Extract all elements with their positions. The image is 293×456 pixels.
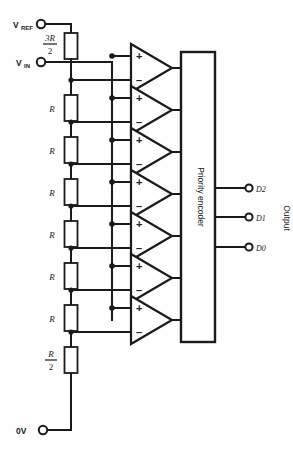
resistor-r-5: R	[48, 263, 77, 289]
comparator-3[interactable]: + –	[131, 128, 181, 176]
junction-dot-tap-1	[68, 77, 73, 82]
minus-input-label: –	[136, 326, 142, 338]
resistor-body	[65, 263, 78, 289]
output-pin-d1[interactable]: D1	[215, 213, 266, 222]
minus-input-label: –	[136, 200, 142, 212]
vref-sublabel: REF	[21, 25, 33, 31]
junction-dot-vin-7	[109, 305, 115, 311]
priority-encoder-block[interactable]: Priority encoder	[181, 52, 215, 342]
junction-dot-tap-6	[68, 287, 73, 292]
output-terminal-d1[interactable]	[245, 213, 252, 220]
junction-dot-tap-5	[68, 245, 73, 250]
resistor-label: R	[48, 104, 55, 114]
junction-dot-vin-3	[109, 137, 115, 143]
ground-label: 0V	[16, 426, 27, 436]
vin-label: V	[16, 58, 22, 68]
comparator-5[interactable]: + –	[131, 212, 181, 260]
resistor-3r-over-2: 3R 2	[43, 33, 78, 59]
vin-terminal-node[interactable]	[37, 58, 45, 66]
junction-dot-vin-1	[109, 53, 115, 59]
comparator-4[interactable]: + –	[131, 170, 181, 218]
minus-input-label: –	[136, 284, 142, 296]
ground-terminal-group: 0V	[16, 426, 47, 436]
junction-dot-vin-6	[109, 263, 115, 269]
ground-terminal-node[interactable]	[39, 426, 47, 434]
output-terminal-d0[interactable]	[245, 243, 252, 250]
resistor-label: R	[48, 188, 55, 198]
output-label-d2: D2	[255, 185, 266, 194]
plus-input-label: +	[136, 176, 142, 188]
resistor-label: R	[48, 314, 55, 324]
output-label-d0: D0	[255, 244, 266, 253]
plus-input-label: +	[136, 302, 142, 314]
ladder-rail-to-ground	[48, 373, 71, 430]
resistor-label: R	[48, 230, 55, 240]
resistor-r-1: R	[48, 95, 77, 121]
circuit-diagram-canvas: V REF 3R 2 V IN R	[0, 0, 293, 456]
resistor-r-4: R	[48, 221, 77, 247]
resistor-denominator: 2	[48, 46, 53, 56]
junction-dot-vin-4	[109, 179, 115, 185]
junction-dot-tap-4	[68, 203, 73, 208]
resistor-body	[65, 137, 78, 163]
resistor-r-2: R	[48, 137, 77, 163]
junction-dot-vin-2	[109, 95, 115, 101]
comparator-2[interactable]: + –	[131, 86, 181, 134]
resistor-r-over-2: R 2	[45, 347, 78, 373]
resistor-r-3: R	[48, 179, 77, 205]
resistor-numerator: 3R	[44, 33, 56, 43]
vref-label: V	[13, 20, 19, 30]
resistor-r-6: R	[48, 305, 77, 331]
output-terminal-d2[interactable]	[245, 184, 252, 191]
output-pin-d0[interactable]: D0	[215, 243, 266, 252]
resistor-numerator: R	[47, 349, 54, 359]
resistor-body	[65, 221, 78, 247]
vref-terminal-group: V REF	[13, 20, 71, 34]
junction-dot-tap-2	[68, 119, 73, 124]
minus-input-label: –	[136, 158, 142, 170]
vref-terminal-node[interactable]	[37, 20, 45, 28]
priority-encoder-label: Priority encoder	[196, 167, 206, 227]
resistor-label: R	[48, 146, 55, 156]
resistor-label: R	[48, 272, 55, 282]
plus-input-label: +	[136, 260, 142, 272]
minus-input-label: –	[136, 242, 142, 254]
plus-input-label: +	[136, 134, 142, 146]
minus-input-label: –	[136, 116, 142, 128]
resistor-denominator: 2	[49, 362, 54, 372]
minus-input-label: –	[136, 74, 142, 86]
comparator-6[interactable]: + –	[131, 254, 181, 302]
output-group-label: Output	[282, 205, 292, 231]
resistor-body	[65, 347, 78, 373]
plus-input-label: +	[136, 218, 142, 230]
comparator-1[interactable]: + –	[131, 44, 181, 92]
resistor-body	[65, 305, 78, 331]
resistor-body	[65, 179, 78, 205]
resistor-body	[65, 33, 78, 59]
junction-dot-tap-7	[68, 329, 73, 334]
vref-lead-wire	[46, 24, 71, 33]
plus-input-label: +	[136, 92, 142, 104]
comparator-7[interactable]: + –	[131, 296, 181, 344]
output-label-d1: D1	[255, 214, 266, 223]
junction-dot-vin-5	[109, 221, 115, 227]
plus-input-label: +	[136, 50, 142, 62]
resistor-body	[65, 95, 78, 121]
output-pin-d2[interactable]: D2	[215, 184, 266, 193]
vin-sublabel: IN	[24, 63, 30, 69]
junction-dot-tap-3	[68, 161, 73, 166]
flash-adc-schematic: V REF 3R 2 V IN R	[0, 0, 293, 456]
